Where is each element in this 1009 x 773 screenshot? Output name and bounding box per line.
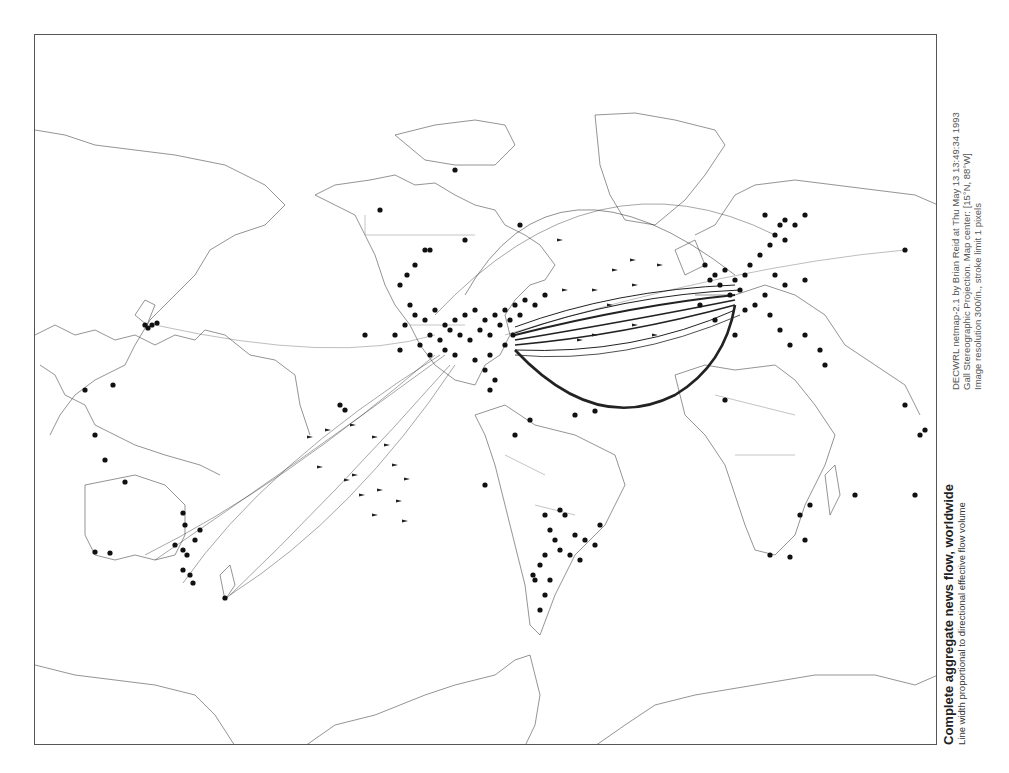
- coastline: [675, 240, 705, 275]
- coastline: [595, 675, 937, 745]
- news-site-dot: [502, 307, 507, 312]
- arrowhead-icon: [592, 289, 598, 292]
- news-site-dot: [452, 167, 457, 172]
- news-site-dot: [457, 332, 462, 337]
- news-site-dot: [912, 492, 917, 497]
- news-flow-lines: [145, 204, 905, 600]
- news-site-dot: [757, 252, 762, 257]
- news-site-dot: [492, 377, 497, 382]
- news-site-dot: [397, 282, 402, 287]
- news-site-dot: [407, 302, 412, 307]
- flow-arrowheads: [307, 239, 663, 523]
- news-site-dot: [852, 492, 857, 497]
- news-site-dot: [222, 595, 227, 600]
- news-site-dot: [402, 322, 407, 327]
- news-site-dot: [742, 307, 747, 312]
- coastline: [825, 465, 840, 515]
- news-site-dot: [597, 522, 602, 527]
- coastline: [35, 665, 235, 745]
- flow-line: [230, 365, 455, 595]
- coastline: [135, 300, 155, 325]
- news-site-dot: [582, 537, 587, 542]
- flow-line: [183, 355, 440, 583]
- title-block: Complete aggregate news flow, worldwide …: [942, 484, 967, 745]
- news-site-dot: [482, 317, 487, 322]
- news-site-dot: [542, 592, 547, 597]
- news-site-dot: [180, 510, 185, 515]
- news-site-dot: [517, 222, 522, 227]
- arrowhead-icon: [359, 494, 365, 497]
- news-site-dot: [442, 347, 447, 352]
- news-site-dot: [802, 537, 807, 542]
- news-site-dot: [517, 312, 522, 317]
- arrowhead-icon: [372, 514, 378, 517]
- news-site-dot: [154, 320, 159, 325]
- news-site-dot: [404, 272, 409, 277]
- news-site-dot: [532, 302, 537, 307]
- news-site-dot: [737, 287, 742, 292]
- news-site-dot: [797, 512, 802, 517]
- flow-line: [515, 295, 735, 335]
- news-site-dot: [792, 222, 797, 227]
- arrowhead-icon: [392, 464, 398, 467]
- arrowhead-icon: [372, 436, 378, 439]
- news-site-dot: [712, 317, 717, 322]
- news-site-dot: [697, 302, 702, 307]
- news-site-dot: [752, 302, 757, 307]
- arrowhead-icon: [377, 489, 383, 492]
- meta-line-1: DECWRL netmap-2.1 by Brian Reid at Thu M…: [950, 112, 961, 390]
- news-site-dot: [187, 572, 192, 577]
- news-site-dot: [557, 547, 562, 552]
- coastline: [220, 565, 235, 600]
- news-site-dot: [702, 262, 707, 267]
- news-site-dot: [707, 277, 712, 282]
- news-site-dot: [717, 282, 722, 287]
- coastline: [35, 130, 285, 435]
- news-site-dot: [422, 247, 427, 252]
- world-map: [35, 35, 937, 745]
- news-site-dot: [182, 522, 187, 527]
- news-site-dot: [917, 432, 922, 437]
- news-site-dot: [102, 457, 107, 462]
- flow-line: [225, 365, 450, 600]
- news-site-dot: [427, 247, 432, 252]
- arrowhead-icon: [307, 436, 313, 439]
- news-site-dot: [497, 322, 502, 327]
- news-site-dot: [592, 408, 597, 413]
- news-site-dot: [472, 357, 477, 362]
- news-site-dot: [542, 552, 547, 557]
- news-site-dot: [762, 212, 767, 217]
- news-site-dot: [487, 352, 492, 357]
- news-site-dot: [762, 292, 767, 297]
- news-site-dot: [727, 292, 732, 297]
- news-site-dot: [537, 607, 542, 612]
- coastlines: [35, 113, 937, 745]
- news-site-dot: [422, 317, 427, 322]
- news-site-dot: [542, 512, 547, 517]
- meta-line-3: Image resolution 300/in., stroke limit 1…: [972, 112, 983, 390]
- news-site-dot: [787, 342, 792, 347]
- border-line: [715, 395, 795, 415]
- news-site-dot: [110, 382, 115, 387]
- news-site-dot: [802, 277, 807, 282]
- news-site-dot: [787, 554, 792, 559]
- news-site-dot: [532, 577, 537, 582]
- flow-line: [145, 355, 435, 555]
- news-site-dot: [107, 550, 112, 555]
- arrowhead-icon: [317, 466, 323, 469]
- arrowhead-icon: [577, 339, 583, 342]
- news-site-dot: [732, 277, 737, 282]
- news-site-dot: [777, 327, 782, 332]
- news-site-dot: [197, 527, 202, 532]
- news-site-dot: [442, 322, 447, 327]
- news-site-dot: [512, 302, 517, 307]
- border-line: [535, 505, 575, 515]
- news-site-dot: [747, 262, 752, 267]
- news-site-dot: [180, 547, 185, 552]
- news-site-dot: [462, 312, 467, 317]
- arrowhead-icon: [344, 479, 350, 482]
- coastline: [595, 113, 725, 225]
- news-site-dot: [902, 402, 907, 407]
- coastline: [695, 180, 937, 235]
- border-line: [505, 455, 545, 475]
